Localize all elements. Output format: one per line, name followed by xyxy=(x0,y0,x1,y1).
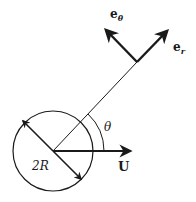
radial-line xyxy=(53,62,137,151)
diameter-arrow xyxy=(23,121,53,151)
e-theta-arrow xyxy=(106,30,137,62)
e-r-label: er xyxy=(173,40,186,56)
diameter-label: 2R xyxy=(31,159,49,173)
e-r-arrow xyxy=(137,31,167,62)
e-theta-label: eθ xyxy=(110,7,124,23)
angle-arc xyxy=(88,114,104,151)
velocity-label: U xyxy=(118,159,130,174)
angle-label: θ xyxy=(104,120,112,134)
vector-diagram: eθ er θ 2R U xyxy=(0,0,196,202)
diameter-arrow-lower xyxy=(53,151,81,179)
